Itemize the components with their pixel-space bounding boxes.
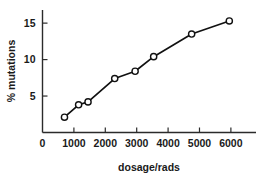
x-tick-label-5000: 5000 bbox=[188, 137, 212, 149]
x-tick-label-4000: 4000 bbox=[156, 137, 180, 149]
data-point-2950 bbox=[132, 68, 138, 74]
y-axis-title: % mutations bbox=[5, 40, 17, 103]
chart-background bbox=[0, 0, 264, 178]
y-tick-label-5: 5 bbox=[30, 90, 36, 102]
x-tick-label-6000: 6000 bbox=[219, 137, 243, 149]
x-tick-label-1000: 1000 bbox=[62, 137, 86, 149]
x-tick-label-3000: 3000 bbox=[125, 137, 149, 149]
y-tick-label-10: 10 bbox=[24, 53, 36, 65]
data-point-3540 bbox=[151, 54, 157, 60]
data-point-1150 bbox=[76, 102, 82, 108]
x-axis-title: dosage/rads bbox=[118, 161, 180, 173]
data-point-5950 bbox=[226, 18, 232, 24]
chart-figure: 51015 0100020003000400050006000 dosage/r… bbox=[0, 0, 264, 178]
data-point-4750 bbox=[189, 31, 195, 37]
x-tick-label-2000: 2000 bbox=[94, 137, 118, 149]
y-tick-label-15: 15 bbox=[24, 17, 36, 29]
data-point-700 bbox=[61, 114, 67, 120]
data-point-1450 bbox=[85, 99, 91, 105]
data-point-2300 bbox=[112, 75, 118, 81]
mutation-dosage-line-chart: 51015 0100020003000400050006000 dosage/r… bbox=[0, 0, 264, 178]
x-tick-label-0: 0 bbox=[40, 137, 46, 149]
